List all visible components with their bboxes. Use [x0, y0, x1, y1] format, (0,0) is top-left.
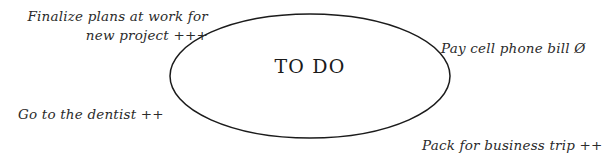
note-pack-for-business-trip: Pack for business trip ++	[422, 136, 603, 155]
note-finalize-plans-line1: Finalize plans at work for	[18, 7, 208, 26]
todo-diagram-canvas: TO DO Finalize plans at work for new pro…	[0, 0, 610, 163]
note-pay-cell-phone-bill: Pay cell phone bill Ø	[441, 39, 586, 58]
note-finalize-plans-line2: new project +++	[18, 26, 208, 45]
note-finalize-plans: Finalize plans at work for new project +…	[18, 7, 208, 45]
note-go-to-dentist: Go to the dentist ++	[18, 105, 164, 124]
todo-center-label: TO DO	[170, 55, 450, 77]
